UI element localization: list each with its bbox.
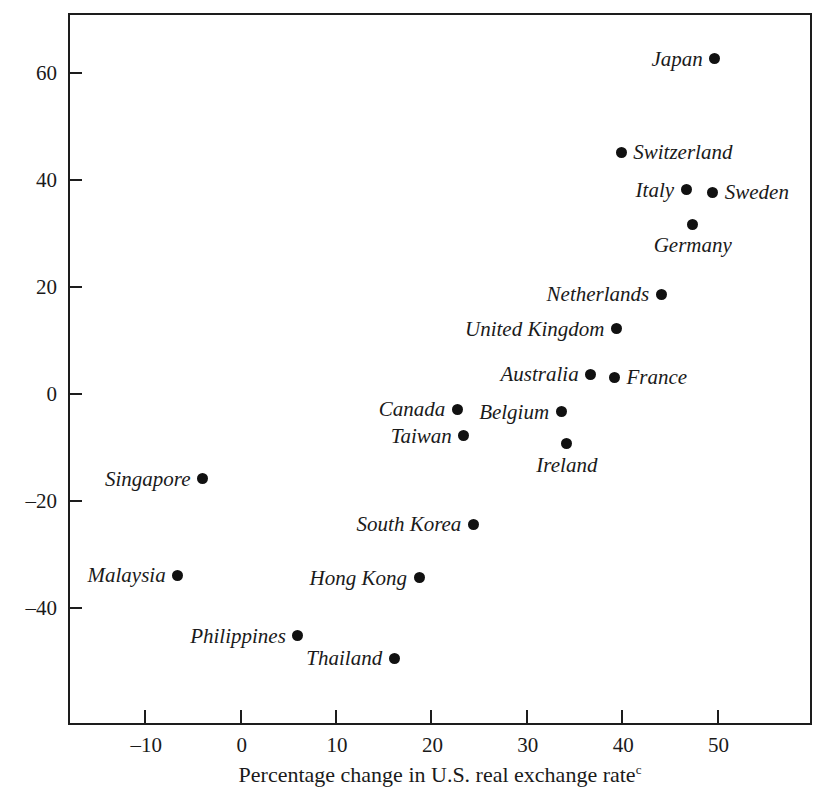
x-axis-tick-label: 30 [517, 733, 538, 758]
data-point[interactable] [709, 53, 720, 64]
y-axis-tick: 60 [68, 72, 82, 74]
data-point[interactable] [609, 372, 620, 383]
y-axis-tick-label: –20 [26, 489, 58, 514]
data-point-label: Italy [636, 179, 674, 201]
y-axis-tick: –40 [68, 607, 82, 609]
data-point-label: Netherlands [547, 283, 650, 305]
y-axis-tick-label: 60 [36, 61, 57, 86]
data-point-label: Taiwan [391, 425, 452, 447]
data-point-label: Philippines [190, 625, 286, 647]
x-axis-tick-label: 0 [236, 733, 247, 758]
data-point[interactable] [389, 653, 400, 664]
x-axis-tick-label: 50 [708, 733, 729, 758]
plot-area: 6040200–20–40 –1001020304050 JapanSwitze… [68, 13, 812, 725]
data-point-label: Canada [379, 398, 446, 420]
x-axis-title-superscript: c [636, 762, 642, 777]
x-axis-tick-label: 10 [327, 733, 348, 758]
x-axis-tick: 20 [430, 710, 432, 725]
data-point-label: South Korea [357, 513, 462, 535]
data-point[interactable] [452, 404, 463, 415]
data-point-label: Hong Kong [310, 567, 407, 589]
data-point-label: Australia [501, 363, 579, 385]
data-point[interactable] [611, 323, 622, 334]
data-point-label: United Kingdom [465, 318, 604, 340]
data-point[interactable] [197, 473, 208, 484]
y-axis-tick-label: 20 [36, 275, 57, 300]
data-point-label: Malaysia [88, 564, 166, 586]
y-axis-tick-label: 40 [36, 168, 57, 193]
data-point-label: France [627, 366, 688, 388]
data-point[interactable] [707, 187, 718, 198]
y-axis-tick: 40 [68, 179, 82, 181]
y-axis-tick: –20 [68, 500, 82, 502]
y-axis-tick-label: –40 [26, 596, 58, 621]
x-axis-tick-label: –10 [131, 733, 163, 758]
x-axis-tick: –10 [144, 710, 146, 725]
data-point[interactable] [561, 438, 572, 449]
data-point-label: Japan [651, 48, 702, 70]
x-axis-tick: 50 [717, 710, 719, 725]
x-axis-tick: 40 [621, 710, 623, 725]
data-point-label: Singapore [105, 468, 191, 490]
data-point[interactable] [414, 572, 425, 583]
x-axis-tick-label: 40 [613, 733, 634, 758]
data-point[interactable] [616, 147, 627, 158]
x-axis-tick-label: 20 [422, 733, 443, 758]
data-point-label: Belgium [479, 401, 549, 423]
data-point-label: Thailand [306, 647, 382, 669]
x-axis-tick: 0 [240, 710, 242, 725]
data-point[interactable] [468, 519, 479, 530]
scatter-chart-figure: 6040200–20–40 –1001020304050 JapanSwitze… [0, 0, 835, 805]
data-point-label: Germany [654, 234, 732, 256]
data-point[interactable] [585, 369, 596, 380]
cropped-caption-strip [0, 0, 835, 9]
x-axis-title: Percentage change in U.S. real exchange … [68, 762, 812, 788]
y-axis-tick: 20 [68, 286, 82, 288]
data-point[interactable] [292, 630, 303, 641]
data-point-label: Sweden [725, 181, 789, 203]
y-axis-tick: 0 [68, 393, 82, 395]
y-axis-tick-label: 0 [47, 382, 58, 407]
data-point[interactable] [687, 219, 698, 230]
data-point[interactable] [656, 289, 667, 300]
data-point[interactable] [556, 406, 567, 417]
data-point-label: Ireland [536, 454, 597, 476]
data-point[interactable] [172, 570, 183, 581]
x-axis-tick: 10 [335, 710, 337, 725]
x-axis-tick: 30 [526, 710, 528, 725]
data-point[interactable] [681, 184, 692, 195]
x-axis-title-text: Percentage change in U.S. real exchange … [239, 762, 636, 787]
data-point-label: Switzerland [633, 141, 732, 163]
data-point[interactable] [458, 430, 469, 441]
